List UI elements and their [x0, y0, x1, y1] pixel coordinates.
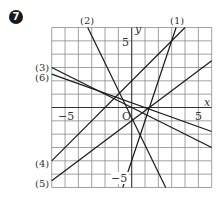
x-tick-5: 5 — [195, 110, 202, 123]
origin-label: O — [122, 110, 131, 123]
line-label-4: (4) — [35, 158, 49, 169]
x-tick-neg5: −5 — [58, 110, 74, 123]
coordinate-plane: (1) (2) (3) (6) (4) (5) y x 5 −5 O 5 −5 — [0, 0, 224, 205]
y-tick-neg5: −5 — [111, 172, 127, 185]
line-label-6: (6) — [35, 72, 49, 83]
x-axis-label: x — [204, 96, 211, 109]
line-label-5: (5) — [35, 178, 49, 189]
y-axis-label: y — [134, 23, 142, 36]
problem-number-badge: 7 — [9, 10, 23, 24]
diagram-stage: 7 (1) (2) (3) (6) (4) (5) y x 5 −5 O 5 −… — [0, 0, 224, 205]
y-tick-5: 5 — [122, 36, 129, 49]
line-label-2: (2) — [80, 15, 94, 26]
line-label-1: (1) — [170, 15, 184, 26]
